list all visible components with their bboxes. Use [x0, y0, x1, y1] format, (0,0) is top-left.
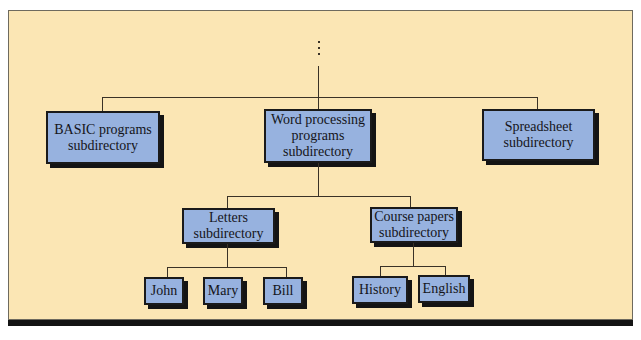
- node-english: English: [418, 275, 470, 303]
- node-label: Spreadsheet subdirectory: [504, 119, 574, 151]
- ellipsis-dot: [318, 41, 320, 43]
- node-label: English: [423, 281, 466, 297]
- node-letters: Letters subdirectory: [182, 208, 275, 244]
- ellipsis-dot: [318, 47, 320, 49]
- node-spreadsheet: Spreadsheet subdirectory: [482, 109, 595, 161]
- node-label: Mary: [208, 283, 238, 299]
- node-history: History: [352, 276, 408, 304]
- connector-line: [413, 243, 414, 267]
- ellipsis-dot: [318, 53, 320, 55]
- node-label: Letters subdirectory: [194, 210, 264, 242]
- node-label: Course papers subdirectory: [374, 209, 454, 241]
- connector-line: [102, 97, 538, 98]
- connector-line: [227, 196, 228, 208]
- node-label: Bill: [272, 283, 293, 299]
- bottom-border-bar: [8, 320, 633, 326]
- node-john: John: [144, 277, 184, 305]
- connector-line: [167, 267, 287, 268]
- connector-line: [227, 196, 411, 197]
- node-label: Word processing programs subdirectory: [271, 112, 365, 160]
- connector-line: [537, 97, 538, 109]
- node-basic-programs: BASIC programs subdirectory: [46, 111, 160, 164]
- node-mary: Mary: [203, 277, 243, 305]
- node-label: History: [359, 282, 401, 298]
- connector-line: [318, 163, 319, 197]
- connector-line: [286, 267, 287, 277]
- connector-line: [380, 266, 446, 267]
- node-word-processing: Word processing programs subdirectory: [264, 109, 372, 163]
- node-course-papers: Course papers subdirectory: [370, 207, 458, 243]
- connector-line: [167, 267, 168, 277]
- connector-line: [227, 244, 228, 268]
- connector-line: [318, 66, 319, 110]
- connector-line: [102, 97, 103, 111]
- node-label: John: [151, 283, 177, 299]
- node-bill: Bill: [263, 277, 303, 305]
- node-label: BASIC programs subdirectory: [54, 122, 152, 154]
- connector-line: [380, 266, 381, 276]
- diagram-panel: [8, 10, 633, 320]
